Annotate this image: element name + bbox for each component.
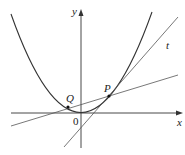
point-q-label: Q [66,92,74,104]
point-p [107,94,110,97]
y-axis-arrow-icon [79,9,84,16]
tangent-label: t [166,39,170,51]
parabola-diagram: y x 0 P Q t [0,0,185,155]
x-axis-arrow-icon [176,111,183,116]
point-p-label: P [103,82,111,94]
point-q [66,105,69,108]
y-axis-label: y [71,5,77,17]
parabola-curve [11,12,152,113]
origin-label: 0 [73,115,79,127]
secant-line-qp [11,75,178,126]
x-axis-label: x [176,116,182,128]
